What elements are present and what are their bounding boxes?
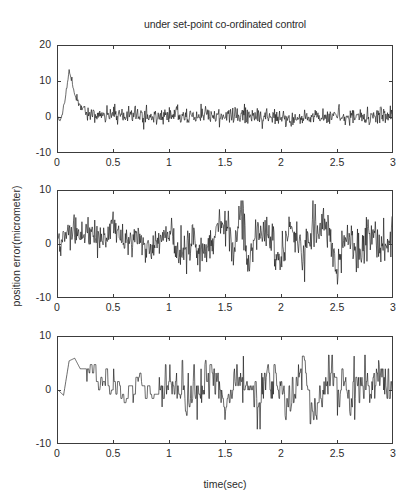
trace-svg-3 [58,337,392,443]
x-tick-mark [113,294,114,298]
subplot-axis-3 [57,336,393,444]
y-tick-label-axis-2: 10 [5,183,51,195]
x-tick-mark [225,190,226,194]
x-tick-label-axis-3: 1 [152,447,186,459]
x-tick-mark [169,336,170,340]
x-tick-mark [337,149,338,153]
y-tick-label-axis-3: 10 [5,329,51,341]
x-tick-label-axis-1: 2.5 [320,156,354,168]
x-tick-label-axis-3: 3 [376,447,410,459]
chart-title: under set-point co-ordinated control [57,18,393,30]
x-tick-mark [225,294,226,298]
x-tick-mark [169,440,170,444]
x-tick-mark [113,190,114,194]
y-tick-mark [57,390,61,391]
x-tick-mark [169,190,170,194]
x-tick-mark [169,149,170,153]
x-tick-mark [225,440,226,444]
x-tick-label-axis-3: 0 [40,447,74,459]
x-axis-label: time(sec) [57,478,393,490]
x-tick-mark [169,294,170,298]
y-tick-label-axis-1: 10 [5,74,51,86]
x-tick-mark [281,45,282,49]
y-tick-label-axis-1: 20 [5,38,51,50]
y-tick-mark [57,117,61,118]
trace-svg-2 [58,191,392,297]
y-tick-mark [57,81,61,82]
trace-line-axis-1 [58,70,392,130]
x-tick-label-axis-3: 0.5 [96,447,130,459]
figure-canvas: under set-point co-ordinated control pos… [0,0,415,504]
x-tick-label-axis-3: 2 [264,447,298,459]
x-tick-mark [225,336,226,340]
x-tick-label-axis-2: 1.5 [208,301,242,313]
x-tick-mark [281,336,282,340]
x-tick-label-axis-3: 2.5 [320,447,354,459]
x-tick-label-axis-1: 1 [152,156,186,168]
x-tick-mark [337,440,338,444]
x-tick-label-axis-2: 0.5 [96,301,130,313]
x-tick-label-axis-1: 2 [264,156,298,168]
x-tick-mark [281,190,282,194]
x-tick-label-axis-2: 1 [152,301,186,313]
x-tick-label-axis-1: 0 [40,156,74,168]
x-tick-label-axis-3: 1.5 [208,447,242,459]
y-tick-mark [389,81,393,82]
x-tick-mark [281,440,282,444]
x-tick-label-axis-1: 0.5 [96,156,130,168]
x-tick-mark [113,440,114,444]
x-tick-label-axis-1: 1.5 [208,156,242,168]
subplot-axis-1 [57,45,393,153]
y-tick-label-axis-3: 0 [5,383,51,395]
x-tick-mark [337,45,338,49]
x-tick-mark [113,45,114,49]
trace-line-axis-2 [58,201,392,285]
x-tick-label-axis-2: 2.5 [320,301,354,313]
x-tick-mark [225,149,226,153]
x-tick-mark [281,149,282,153]
x-tick-mark [337,190,338,194]
trace-svg-1 [58,46,392,152]
x-tick-mark [113,149,114,153]
x-tick-mark [113,336,114,340]
y-tick-mark [389,244,393,245]
x-tick-mark [337,336,338,340]
trace-line-axis-3 [58,355,392,429]
subplot-axis-2 [57,190,393,298]
x-tick-mark [337,294,338,298]
x-tick-label-axis-2: 0 [40,301,74,313]
y-tick-label-axis-1: 0 [5,110,51,122]
x-tick-label-axis-1: 3 [376,156,410,168]
y-tick-mark [389,117,393,118]
x-tick-mark [169,45,170,49]
x-tick-mark [225,45,226,49]
x-tick-mark [281,294,282,298]
y-tick-label-axis-2: 0 [5,237,51,249]
x-tick-label-axis-2: 3 [376,301,410,313]
x-tick-label-axis-2: 2 [264,301,298,313]
y-tick-mark [389,390,393,391]
y-tick-mark [57,244,61,245]
